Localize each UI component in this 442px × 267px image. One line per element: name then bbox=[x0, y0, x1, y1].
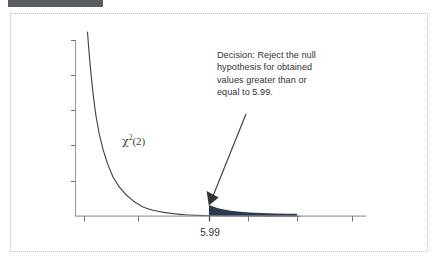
chi-symbol: χ bbox=[122, 135, 129, 148]
header-redaction-bar bbox=[8, 0, 103, 7]
annotation-text-block: Decision: Reject the null hypothesis for… bbox=[217, 49, 349, 98]
chi-degrees-of-freedom: (2) bbox=[132, 135, 145, 147]
x-axis-critical-value-label: 5.99 bbox=[187, 227, 233, 238]
annotation-line-1: Decision: Reject the null bbox=[217, 49, 349, 61]
annotation-line-2: hypothesis for obtained bbox=[217, 61, 349, 73]
annotation-line-3: values greater than or bbox=[217, 74, 349, 86]
curve-label-chi-square: χ2(2) bbox=[122, 133, 145, 148]
annotation-line-4: equal to 5.99. bbox=[217, 86, 349, 98]
